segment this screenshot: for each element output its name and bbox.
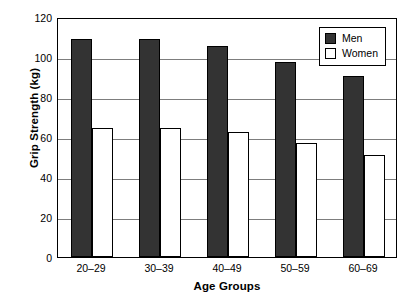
x-axis-tick-label: 60–69: [348, 262, 377, 274]
bar-men-40-49: [207, 46, 228, 257]
bar-women-60-69: [364, 155, 385, 257]
bar-group: [194, 19, 262, 257]
y-axis-tick-labels: 020406080100120: [20, 0, 52, 308]
x-axis-tick-label: 50–59: [280, 262, 309, 274]
bar-women-50-59: [296, 143, 317, 257]
x-axis-title: Age Groups: [57, 280, 397, 292]
y-axis-tick-label: 80: [20, 92, 52, 104]
legend-swatch-women-icon: [325, 48, 336, 59]
y-axis-tick-label: 40: [20, 172, 52, 184]
grip-strength-bar-chart: Grip Strength (kg) 020406080100120 MenWo…: [0, 0, 416, 308]
legend-swatch-men-icon: [325, 33, 336, 44]
x-axis-tick-label: 30–39: [144, 262, 173, 274]
legend-item-women: Women: [325, 46, 378, 61]
bar-women-20-29: [92, 128, 113, 257]
x-axis-tick-labels: 20–2930–3940–4950–5960–69: [57, 262, 397, 278]
legend-label: Men: [342, 33, 362, 44]
x-axis-tick-label: 40–49: [212, 262, 241, 274]
plot-area: MenWomen: [57, 18, 397, 258]
bar-men-60-69: [343, 76, 364, 257]
bar-men-20-29: [71, 39, 92, 257]
legend-label: Women: [342, 48, 378, 59]
x-axis-tick-label: 20–29: [76, 262, 105, 274]
bar-women-30-39: [160, 128, 181, 257]
y-axis-tick-label: 20: [20, 212, 52, 224]
bar-women-40-49: [228, 132, 249, 257]
bar-group: [126, 19, 194, 257]
y-axis-tick-label: 120: [20, 12, 52, 24]
legend: MenWomen: [319, 27, 386, 66]
bar-group: [58, 19, 126, 257]
legend-item-men: Men: [325, 31, 378, 46]
y-axis-tick-label: 0: [20, 252, 52, 264]
bar-men-50-59: [275, 62, 296, 257]
y-axis-tick-label: 60: [20, 132, 52, 144]
y-axis-tick-label: 100: [20, 52, 52, 64]
bar-men-30-39: [139, 39, 160, 257]
